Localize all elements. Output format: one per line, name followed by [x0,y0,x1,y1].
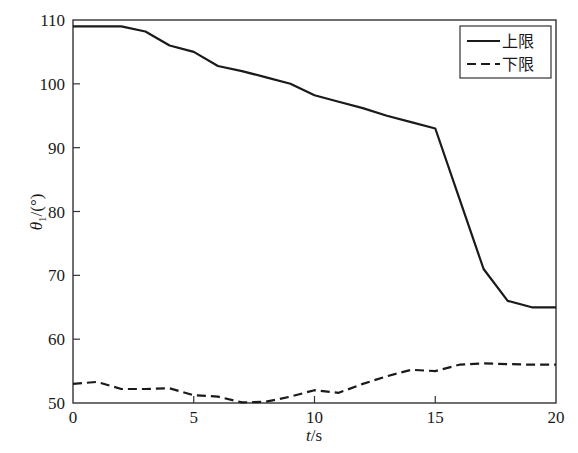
y-tick-label: 90 [48,139,65,158]
x-tick-label: 10 [306,408,323,427]
x-tick-label: 0 [69,408,78,427]
x-tick-label: 20 [548,408,565,427]
legend-label-lower: 下限 [502,55,534,74]
line-chart: 051015205060708090100110 t/s θ1/(°) 上限 下… [0,0,578,453]
y-axis-label: θ1/(°) [27,194,48,231]
x-tick-label: 5 [190,408,199,427]
y-tick-label: 80 [48,203,65,222]
y-tick-label: 60 [48,330,65,349]
svg-text:θ1/(°): θ1/(°) [27,194,48,231]
y-tick-label: 100 [40,75,66,94]
series-layer [73,26,556,402]
y-tick-label: 50 [48,394,65,413]
y-tick-label: 70 [48,266,65,285]
x-axis-label: t/s [306,426,322,445]
legend: 上限 下限 [460,26,551,78]
y-tick-label: 110 [40,11,65,30]
legend-label-upper: 上限 [502,32,534,51]
x-tick-label: 15 [427,408,444,427]
